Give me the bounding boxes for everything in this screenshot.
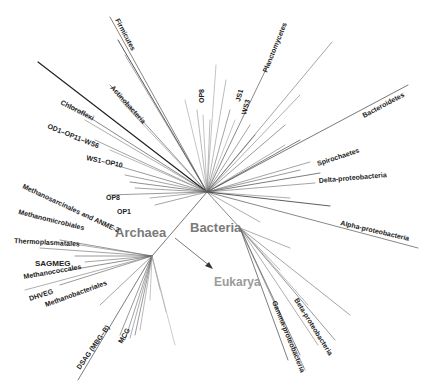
label-firmicutes: Firmicutes	[114, 17, 137, 52]
label-alpha-proteobacteria: Alpha-proteobacteria	[340, 219, 410, 243]
label-thermoplasmatales: Thermoplasmatales	[14, 237, 80, 248]
label-actinobacteria: Actinobacteria	[109, 84, 147, 125]
label-od1-op11-ws6: OD1–OP11–WS6	[47, 122, 101, 149]
label-beta-proteobacteria: Beta-proteobacteria	[292, 297, 334, 357]
label-ws3: WS3	[240, 99, 251, 116]
label-ws1-op10: WS1–OP10	[86, 154, 124, 169]
label-js1: JS1	[234, 88, 244, 102]
domain-label-archaea: Archaea	[115, 225, 167, 240]
domain-label-bacteria: Bacteria	[190, 220, 242, 235]
bacteria-branches	[38, 17, 418, 370]
label-mcg: MCG	[117, 326, 132, 344]
domain-label-eukarya: Eukarya	[214, 275, 261, 289]
label-op8-left: OP8	[106, 194, 120, 201]
label-dsag-mbg-b: DSAG (MBG–B)	[75, 324, 111, 371]
label-op1: OP1	[117, 208, 131, 215]
label-op8-top: OP8	[198, 89, 205, 103]
archaea-labels: Methanosarcinales and ANME-2 Methanomicr…	[14, 183, 131, 372]
phylogenetic-tree: Bacteria Archaea Eukarya Firmicutes Acti…	[0, 0, 429, 388]
bacteria-labels: Firmicutes Actinobacteria Chloroflexi OD…	[47, 17, 410, 374]
label-spirochaetes: Spirochaetes	[316, 147, 360, 168]
label-bacteroidetes: Bacteroidetes	[361, 91, 405, 119]
label-planctomycetes: Planctomycetes	[261, 21, 288, 74]
label-delta-proteobacteria: Delta-proteobacteria	[318, 171, 387, 185]
